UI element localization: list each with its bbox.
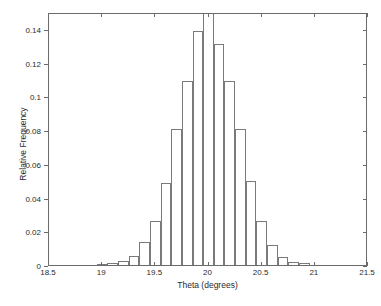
histogram-bar [171,129,182,265]
y-tick-mark-right [363,165,367,166]
x-tick-label: 19.5 [147,268,163,277]
histogram-bar [278,257,289,265]
y-tick-label: 0.14 [25,25,41,34]
x-tick-mark-top [154,13,155,17]
x-tick-mark-top [367,13,368,17]
x-tick-mark-top [48,13,49,17]
x-tick-mark-top [208,13,209,17]
y-tick-mark [44,165,48,166]
x-tick-mark [101,262,102,266]
histogram-bar [235,129,246,265]
x-tick-label: 20.5 [253,268,269,277]
histogram-bar [203,13,214,265]
histogram-bar [299,263,310,265]
y-tick-mark [44,199,48,200]
x-tick-mark [261,262,262,266]
histogram-bar [139,242,150,265]
y-tick-mark [44,64,48,65]
x-tick-mark [367,262,368,266]
y-tick-label: 0.1 [30,93,41,102]
x-tick-label: 20 [203,268,212,277]
y-tick-mark [44,30,48,31]
histogram-bar [161,183,172,265]
histogram-bar [193,31,204,265]
y-tick-mark [44,232,48,233]
histogram-bar [214,44,225,265]
histogram-bar [107,263,118,265]
x-tick-label: 21 [309,268,318,277]
x-tick-mark [208,262,209,266]
histogram-bar [288,262,299,265]
y-tick-label: 0 [37,262,41,271]
y-tick-mark-right [363,30,367,31]
histogram-bar [97,264,108,265]
x-tick-mark-top [261,13,262,17]
histogram-bar [129,256,140,265]
y-tick-mark-right [363,131,367,132]
x-tick-mark [314,262,315,266]
x-tick-mark-top [314,13,315,17]
y-tick-mark-right [363,232,367,233]
bar-series [49,14,366,265]
y-tick-mark-right [363,199,367,200]
histogram-bar [267,245,278,265]
histogram-bar [182,81,193,265]
x-axis-title: Theta (degrees) [48,280,367,290]
y-tick-mark [44,97,48,98]
x-tick-mark [154,262,155,266]
histogram-bar [150,221,161,265]
y-tick-label: 0.12 [25,59,41,68]
histogram-bar [256,221,267,265]
histogram-bar [224,81,235,265]
y-tick-mark [44,266,48,267]
y-axis-title: Relative Frequency [18,74,28,214]
y-tick-mark-right [363,97,367,98]
y-tick-mark-right [363,266,367,267]
y-tick-label: 0.02 [25,228,41,237]
histogram-bar [246,181,257,265]
histogram-bar [118,261,129,265]
x-tick-mark-top [101,13,102,17]
x-tick-label: 18.5 [40,268,56,277]
x-tick-label: 19 [97,268,106,277]
y-tick-mark-right [363,64,367,65]
x-tick-mark [48,262,49,266]
y-tick-mark [44,131,48,132]
histogram-figure: 18.51919.52020.52121.5 00.020.040.060.08… [0,0,381,306]
plot-area [48,13,367,266]
x-tick-label: 21.5 [359,268,375,277]
